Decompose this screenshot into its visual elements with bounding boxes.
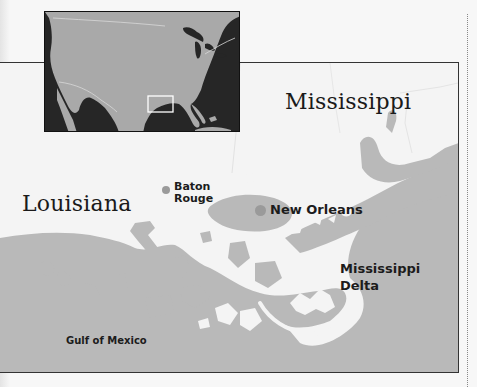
city-marker-baton-rouge	[162, 186, 170, 194]
feature-label-delta-line1: Mississippi	[340, 260, 420, 277]
state-label-louisiana: Louisiana	[22, 191, 132, 216]
feature-label-gulf-of-mexico: Gulf of Mexico	[66, 335, 147, 346]
city-label-baton-rouge-line2: Rouge	[174, 193, 213, 205]
dotted-margin-rule	[467, 14, 468, 387]
inset-map-usa	[44, 11, 240, 132]
state-label-mississippi: Mississippi	[285, 89, 411, 114]
feature-label-delta-line2: Delta	[340, 277, 420, 294]
city-label-new-orleans: New Orleans	[270, 202, 363, 217]
city-marker-new-orleans	[255, 205, 266, 216]
feature-label-mississippi-delta: Mississippi Delta	[340, 260, 420, 294]
city-label-baton-rouge: Baton Rouge	[174, 181, 213, 205]
inset-map-geography	[45, 12, 240, 132]
